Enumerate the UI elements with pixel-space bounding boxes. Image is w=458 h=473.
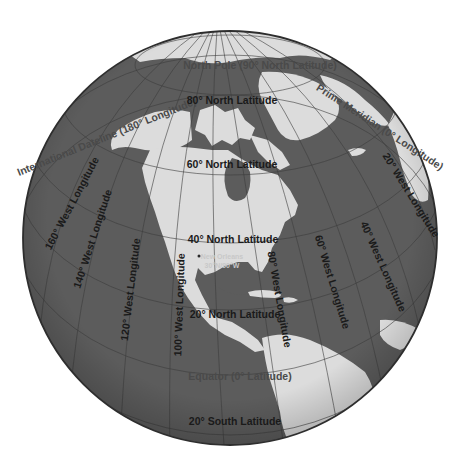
north-pole-label: North Pole (90° North Latitude) — [183, 59, 337, 71]
equator-label: Equator (0° Latitude) — [188, 370, 291, 382]
latitude-label-80n: 80° North Latitude — [187, 94, 278, 106]
latitude-label-60n: 60° North Latitude — [187, 158, 278, 170]
latitude-label-20n: 20° North Latitude — [190, 308, 281, 320]
latitude-label-40n: 40° North Latitude — [188, 233, 279, 245]
new-orleans-coords: 30°N/90°W — [205, 262, 240, 269]
latitude-label-20s: 20° South Latitude — [189, 415, 281, 427]
globe-map: North Pole (90° North Latitude) Internat… — [0, 0, 458, 473]
new-orleans-name: New Orleans — [201, 253, 244, 260]
